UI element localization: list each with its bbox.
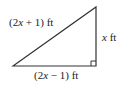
base-label: (2x − 1) ft (34, 70, 78, 81)
right-angle-marker (91, 61, 96, 66)
vertical-side-label: x ft (102, 32, 116, 43)
right-triangle-diagram: (2x + 1) ft x ft (2x − 1) ft (0, 0, 122, 86)
hypotenuse-label: (2x + 1) ft (9, 17, 53, 28)
